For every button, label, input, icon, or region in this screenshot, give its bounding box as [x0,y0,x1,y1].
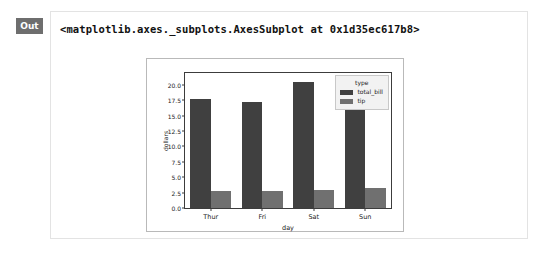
bar-total_bill-sat [293,82,314,208]
y-tick-label: 0.0 [171,205,181,212]
bar-tip-thur [211,191,232,208]
y-tick-label: 7.5 [171,158,181,165]
bar-tip-sat [314,190,335,208]
bar-tip-fri [262,191,283,208]
output-panel: <matplotlib.axes._subplots.AxesSubplot a… [50,11,528,239]
x-tick-label: Sat [308,213,319,221]
legend-title: type [340,79,383,86]
x-tick-label: Fri [258,213,266,221]
notebook-output-cell: Out <matplotlib.axes._subplots.AxesSubpl… [0,0,535,256]
y-tick-label: 2.5 [171,189,181,196]
legend-entry: total_bill [340,88,383,96]
object-repr-text: <matplotlib.axes._subplots.AxesSubplot a… [60,23,420,35]
y-tick-label: 10.0 [168,143,181,150]
y-tick-mark [182,100,185,101]
x-tick-mark [210,208,211,211]
bar-tip-sun [365,188,386,208]
plot-axes: dollars day 0.02.55.07.510.012.515.017.5… [184,72,392,209]
x-tick-mark [262,208,263,211]
y-tick-mark [182,146,185,147]
y-tick-mark [182,161,185,162]
x-tick-mark [313,208,314,211]
x-axis-label: day [185,224,391,232]
legend-entries: total_billtip [340,88,383,105]
y-tick-label: 17.5 [168,97,181,104]
y-tick-label: 15.0 [168,112,181,119]
y-tick-mark [182,192,185,193]
legend-swatch-total_bill [340,90,353,95]
bar-total_bill-fri [242,102,263,208]
legend-label-total_bill: total_bill [357,88,383,96]
output-prompt-badge: Out [16,18,43,34]
x-tick-label: Thur [203,213,218,221]
y-tick-label: 5.0 [171,174,181,181]
y-tick-mark [182,84,185,85]
legend-swatch-tip [340,99,353,104]
y-tick-label: 12.5 [168,127,181,134]
y-tick-mark [182,115,185,116]
y-tick-label: 20.0 [168,81,181,88]
x-tick-mark [365,208,366,211]
matplotlib-figure: dollars day 0.02.55.07.510.012.515.017.5… [146,58,404,232]
y-tick-mark [182,130,185,131]
legend-entry: tip [340,97,383,105]
y-tick-mark [182,208,185,209]
x-tick-label: Sun [359,213,371,221]
legend-label-tip: tip [357,97,365,105]
chart-legend: type total_billtip [335,75,389,110]
bar-total_bill-thur [190,99,211,208]
y-tick-mark [182,177,185,178]
